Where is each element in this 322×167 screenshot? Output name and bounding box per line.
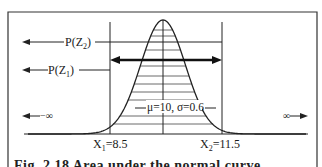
p-z1-label: P(Z1): [48, 63, 74, 79]
neg-infinity-arrow: [22, 113, 40, 119]
interval-double-arrow: [110, 56, 222, 64]
p-z2-label: P(Z2): [65, 35, 91, 51]
x1-label: X1=8.5: [93, 137, 127, 153]
pos-infinity-arrow: [290, 113, 308, 119]
figure-caption: Fig. 2.18 Area under the normal curve: [14, 158, 314, 167]
normal-curve-diagram: P(Z2) P(Z1) μ=10, σ=0.6 −∞ ∞ X1=8.5 X2=1…: [0, 0, 322, 167]
pos-infinity-label: ∞: [283, 110, 290, 121]
neg-infinity-label: −∞: [40, 110, 53, 121]
params-label: μ=10, σ=0.6: [147, 101, 204, 114]
x2-label: X2=11.5: [200, 137, 240, 153]
p-z2-arrow: [22, 39, 222, 45]
